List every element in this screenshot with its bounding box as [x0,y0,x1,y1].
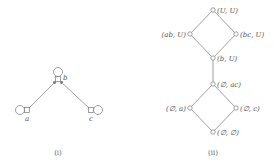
node-EE [211,130,215,134]
node-bU-label: (b, U) [217,55,238,63]
node-b [56,77,61,82]
node-c-label: c [89,115,93,123]
self-loop-a-icon [16,106,25,115]
edge-abU-bU [190,34,213,58]
edge-Ea-EE [190,108,213,132]
self-loop-c-icon [94,106,103,115]
caption-ii: (ii) [208,149,218,157]
node-Eac-label: (∅, ac) [217,81,241,89]
node-Ea-label: (∅, a) [166,105,186,113]
diagrams-canvas: b a c (i) (U, U) (ab, U) (bc, U) (b, U) … [0,0,276,163]
node-UU [211,8,215,12]
node-UU-label: (U, U) [217,7,238,15]
node-bcU [234,32,238,36]
node-Eac [211,82,215,86]
node-abU-label: (ab, U) [162,31,187,39]
node-Ea [188,106,192,110]
caption-i: (i) [54,149,62,157]
edge-UU-abU [190,10,213,34]
node-abU [188,32,192,36]
node-bcU-label: (bc, U) [240,31,264,39]
node-bU [211,56,215,60]
edge-a-b [29,81,56,108]
node-b-label: b [63,74,68,82]
node-Ec [234,106,238,110]
node-Ec-label: (∅, c) [240,105,260,113]
edge-c-b [60,81,89,108]
edge-Eac-Ea [190,84,213,108]
node-a-label: a [25,115,29,123]
node-c [89,108,94,113]
node-EE-label: (∅, ∅) [217,129,239,137]
self-loop-b-icon [54,68,63,77]
node-a [25,108,30,113]
diagram-i: b a c (i) [16,68,103,158]
diagram-ii: (U, U) (ab, U) (bc, U) (b, U) (∅, ac) (∅… [162,7,265,158]
